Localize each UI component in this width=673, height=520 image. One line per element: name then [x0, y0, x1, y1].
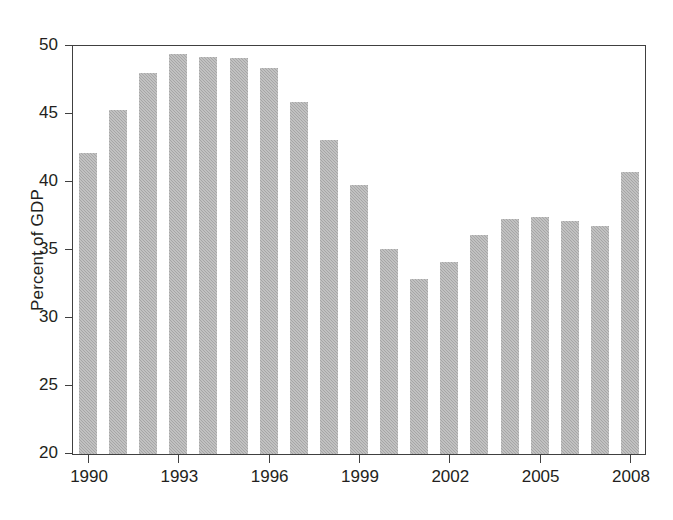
bar	[501, 219, 519, 454]
bar	[199, 57, 217, 454]
bar	[320, 140, 338, 454]
y-axis-tick-label: 20	[39, 443, 58, 463]
x-axis-tick-label: 2005	[522, 467, 560, 487]
bar	[139, 73, 157, 454]
x-axis-tick-label: 2002	[431, 467, 469, 487]
bar	[230, 58, 248, 454]
bar	[561, 221, 579, 454]
bar	[531, 217, 549, 454]
bar	[410, 279, 428, 454]
x-axis-tick: 2002	[449, 454, 450, 463]
x-axis-tick-label: 1993	[160, 467, 198, 487]
x-axis-tick-label: 1999	[341, 467, 379, 487]
bar	[109, 110, 127, 454]
y-axis-tick-label: 35	[39, 239, 58, 259]
bar	[470, 235, 488, 454]
chart-page: Percent of GDP 2025303540455019901993199…	[0, 0, 673, 520]
bar	[350, 185, 368, 454]
bar	[380, 249, 398, 454]
y-axis-tick: 40	[65, 181, 73, 182]
y-axis-tick-label: 30	[39, 307, 58, 327]
x-axis-tick: 1990	[88, 454, 89, 463]
bar	[79, 153, 97, 454]
y-axis-tick: 30	[65, 317, 73, 318]
bar	[260, 68, 278, 454]
y-axis-tick-label: 45	[39, 103, 58, 123]
bar	[290, 102, 308, 454]
x-axis-tick: 1996	[269, 454, 270, 463]
bar	[591, 226, 609, 454]
y-axis-tick: 50	[65, 45, 73, 46]
x-axis-tick: 1993	[178, 454, 179, 463]
y-axis-tick: 45	[65, 113, 73, 114]
y-axis-tick-label: 25	[39, 375, 58, 395]
x-axis-tick: 2005	[540, 454, 541, 463]
x-axis-tick-label: 2008	[612, 467, 650, 487]
y-axis-tick-label: 50	[39, 35, 58, 55]
x-axis-tick: 2008	[630, 454, 631, 463]
bar	[440, 262, 458, 454]
bar	[169, 54, 187, 454]
x-axis-tick-label: 1996	[251, 467, 289, 487]
x-axis-tick: 1999	[359, 454, 360, 463]
y-axis-tick: 25	[65, 385, 73, 386]
plot-area: 2025303540455019901993199619992002200520…	[72, 45, 646, 455]
y-axis-tick: 35	[65, 249, 73, 250]
bar	[621, 172, 639, 454]
y-axis-tick-label: 40	[39, 171, 58, 191]
x-axis-tick-label: 1990	[70, 467, 108, 487]
y-axis-tick: 20	[65, 453, 73, 454]
